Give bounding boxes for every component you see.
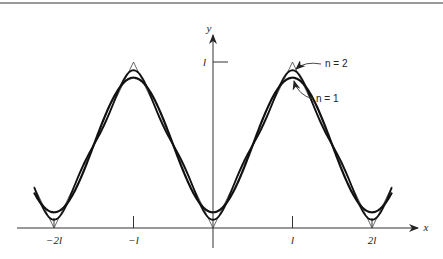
fourier-chart: y x l −2l −l l 2l n = 2 n = 1 <box>0 0 443 259</box>
x-tick-label-l: l <box>291 234 294 246</box>
annotation-arrow-n2 <box>296 63 321 69</box>
annotation-n1: n = 1 <box>316 93 339 104</box>
x-tick-label-neg-2l: −2l <box>46 234 62 246</box>
y-axis-label: y <box>206 22 212 34</box>
x-tick-label-neg-l: −l <box>128 234 138 246</box>
x-tick-label-2l: 2l <box>368 234 377 246</box>
x-axis-label: x <box>423 221 429 233</box>
y-tick-label-l: l <box>203 56 206 68</box>
annotation-n2: n = 2 <box>325 58 348 69</box>
